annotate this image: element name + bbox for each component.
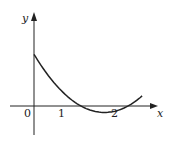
y-axis-arrow-icon: [31, 12, 37, 21]
function-graph: y x 0 1 2: [0, 0, 172, 149]
x-tick-label-1: 1: [58, 107, 65, 120]
y-axis-label: y: [21, 12, 29, 25]
origin-label: 0: [24, 107, 31, 120]
x-axis-label: x: [157, 107, 164, 120]
x-tick-label-2: 2: [111, 107, 118, 120]
parabola-curve: [34, 54, 142, 112]
